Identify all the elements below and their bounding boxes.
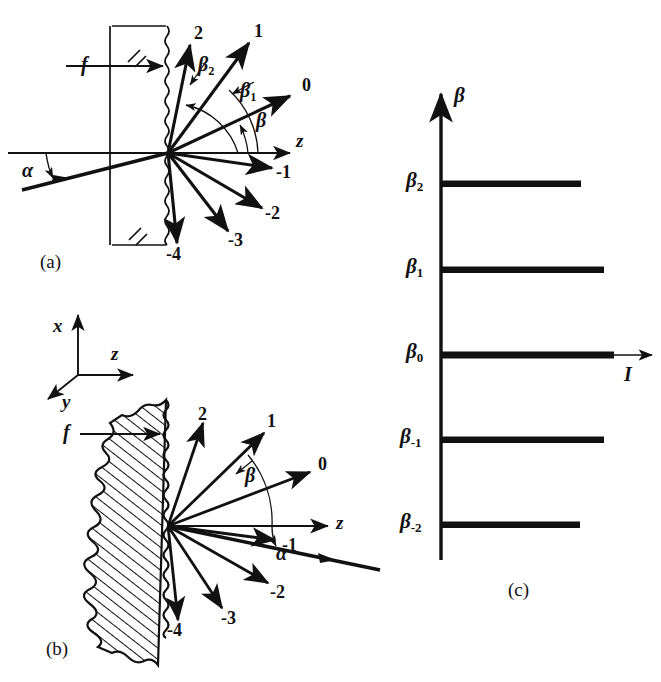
panel-label-c: (c)	[508, 580, 529, 599]
beta-2-sub: 2	[208, 64, 214, 78]
order-label-m2-b: -2	[270, 583, 285, 601]
panel-label-b: (b)	[46, 639, 68, 658]
intensity-bar	[441, 437, 604, 444]
order-label-0-b: 0	[318, 455, 327, 473]
alpha-angle-indicator-a	[46, 153, 53, 178]
beta-axis-label: β	[454, 85, 465, 106]
intensity-bar	[441, 181, 581, 188]
glass-sparkle-icon	[128, 50, 147, 245]
order-label-m2-a: -2	[265, 204, 280, 222]
beta-2-base: β	[198, 53, 208, 75]
tick-sub: 0	[417, 350, 424, 365]
beta-1-sub: 1	[250, 90, 256, 104]
order-label-2-a: 2	[194, 24, 203, 42]
tick-sub: -1	[411, 435, 422, 450]
tick-label-beta-m2: β-2	[400, 511, 422, 534]
tick-label-beta-1: β1	[406, 256, 423, 279]
incident-flux-label-b: f	[63, 422, 70, 442]
order-label-m3-b: -3	[221, 609, 236, 627]
tick-label-beta-m1: β-1	[400, 426, 422, 449]
panel-label-a: (a)	[40, 252, 61, 271]
order-ray-m3	[168, 153, 228, 231]
beta-label-b: β	[245, 465, 255, 485]
incident-beam-a	[22, 153, 168, 190]
incident-beam-b	[168, 526, 380, 570]
reflection-grating-body	[84, 400, 169, 665]
triad-y-label: y	[62, 392, 70, 411]
alpha-label-a: α	[22, 160, 33, 180]
order-label-m3-a: -3	[228, 231, 243, 249]
panel-b	[48, 315, 380, 665]
order-label-m4-a: -4	[166, 245, 181, 263]
beta-2-arc	[186, 105, 238, 153]
diffraction-grating-figure	[0, 0, 661, 682]
glass-slab	[110, 26, 169, 245]
panel-a	[8, 26, 290, 245]
beta-arc	[240, 125, 248, 153]
tick-base: β	[406, 168, 417, 192]
tick-sub: 1	[417, 265, 424, 280]
triad-z-label: z	[111, 344, 118, 363]
tick-base: β	[400, 424, 411, 448]
tick-base: β	[406, 254, 417, 278]
tick-base: β	[400, 509, 411, 533]
intensity-bar	[441, 352, 614, 359]
incident-flux-label-a: f	[81, 54, 88, 74]
beta-1-base: β	[240, 79, 250, 101]
tick-sub: -2	[411, 520, 422, 535]
panel-c	[441, 94, 652, 560]
diffracted-orders-b	[168, 423, 310, 620]
intensity-axis-label: I	[624, 364, 632, 384]
intensity-bars	[441, 181, 614, 529]
z-axis-label-b: z	[336, 513, 343, 532]
intensity-bar	[441, 522, 580, 529]
beta-2-label-a: β2	[198, 54, 214, 77]
order-label-1-a: 1	[254, 22, 263, 40]
z-axis-label-a: z	[296, 131, 303, 150]
tick-label-beta-0: β0	[406, 341, 423, 364]
tick-sub: 2	[417, 179, 424, 194]
tick-label-beta-2: β2	[406, 170, 423, 193]
order-ray-0	[168, 472, 310, 526]
tick-base: β	[406, 339, 417, 363]
order-label-m1-b: -1	[282, 536, 297, 554]
intensity-bar	[441, 267, 604, 274]
beta-label-a: β	[256, 110, 266, 130]
order-label-m1-a: -1	[276, 163, 291, 181]
triad-x-label: x	[53, 316, 63, 335]
order-label-1-b: 1	[267, 412, 276, 430]
order-label-m4-b: -4	[167, 621, 182, 639]
order-label-0-a: 0	[302, 76, 311, 94]
grating-face	[165, 26, 169, 245]
order-label-2-b: 2	[198, 405, 207, 423]
beta-1-label-a: β1	[240, 80, 256, 103]
